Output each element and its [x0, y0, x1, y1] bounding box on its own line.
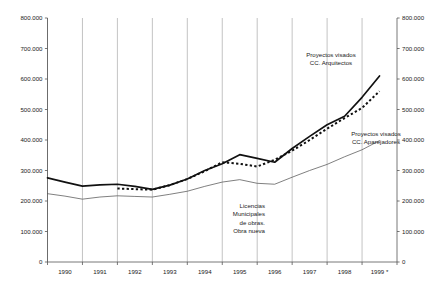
- y-axis-label-right: 0: [402, 258, 406, 265]
- y-axis-left-ticks: 0100.000200.000300.000400.000500.000600.…: [20, 14, 47, 265]
- y-axis-label-right: 300.000: [402, 167, 425, 174]
- y-axis-label-right: 800.000: [402, 14, 425, 21]
- x-axis-label: 1991: [93, 268, 107, 275]
- x-axis-label: 1995: [233, 268, 247, 275]
- x-axis-label: 1990: [58, 268, 72, 275]
- x-axis-label: 1997: [303, 268, 317, 275]
- annot-licencias-line: de obras.: [240, 219, 266, 226]
- x-axis-label: 1998: [338, 268, 352, 275]
- y-axis-label-left: 300.000: [20, 167, 43, 174]
- series-line-aparejadores: [117, 91, 379, 190]
- annot-licencias-line: Municipales: [233, 210, 265, 217]
- x-axis-label: 1993: [163, 268, 177, 275]
- x-axis-ticks: 1990199119921993199419951996199719981999…: [48, 262, 398, 275]
- y-axis-label-left: 100.000: [20, 228, 43, 235]
- y-axis-label-left: 500.000: [20, 106, 43, 113]
- y-axis-label-left: 400.000: [20, 136, 43, 143]
- line-chart: 0100.000200.000300.000400.000500.000600.…: [0, 0, 445, 293]
- y-axis-label-right: 100.000: [402, 228, 425, 235]
- y-axis-label-right: 400.000: [402, 136, 425, 143]
- y-axis-label-left: 0: [39, 258, 43, 265]
- y-axis-right-ticks: 0100.000200.000300.000400.000500.000600.…: [397, 14, 425, 265]
- annot-aparejadores-line: CC. Aparejadores: [352, 138, 400, 145]
- annot-aparejadores-line: Proyectos visados: [351, 130, 400, 137]
- y-axis-label-right: 200.000: [402, 197, 425, 204]
- data-series: [48, 76, 380, 199]
- y-axis-label-right: 700.000: [402, 45, 425, 52]
- y-axis-label-left: 600.000: [20, 75, 43, 82]
- annot-arquitectos: Proyectos visadosCC. Arquitectos: [306, 51, 355, 66]
- series-annotations: Proyectos visadosCC. ArquitectosProyecto…: [233, 51, 401, 234]
- annot-arquitectos-line: Proyectos visados: [306, 51, 355, 58]
- x-axis-label: 1994: [198, 268, 212, 275]
- series-line-arquitectos: [48, 76, 380, 189]
- annot-arquitectos-line: CC. Arquitectos: [310, 59, 352, 66]
- annot-licencias-line: Licencias: [240, 202, 265, 209]
- x-axis-label: 1992: [128, 268, 142, 275]
- y-axis-label-left: 800.000: [20, 14, 43, 21]
- y-axis-label-left: 200.000: [20, 197, 43, 204]
- y-axis-label-right: 600.000: [402, 75, 425, 82]
- annot-licencias: LicenciasMunicipalesde obras.Obra nueva: [233, 202, 266, 234]
- chart-container: 0100.000200.000300.000400.000500.000600.…: [0, 0, 445, 293]
- x-axis-label: 1996: [268, 268, 282, 275]
- series-line-licencias: [48, 141, 380, 200]
- annot-aparejadores: Proyectos visadosCC. Aparejadores: [351, 130, 400, 145]
- y-axis-label-left: 700.000: [20, 45, 43, 52]
- annot-licencias-line: Obra nueva: [233, 227, 265, 234]
- x-axis-label: 1999 *: [371, 268, 389, 275]
- y-axis-label-right: 500.000: [402, 106, 425, 113]
